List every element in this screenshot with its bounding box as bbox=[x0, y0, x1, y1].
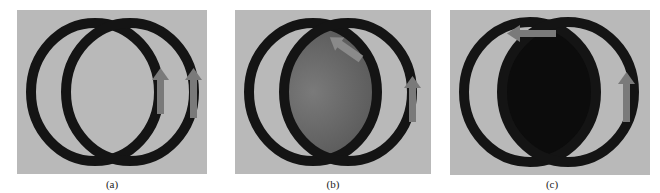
overlapping-rings-diagram-c bbox=[450, 10, 650, 175]
caption-c: (c) bbox=[532, 178, 572, 190]
panel-a bbox=[17, 10, 207, 174]
caption-b: (b) bbox=[313, 178, 353, 190]
caption-a: (a) bbox=[92, 178, 132, 190]
overlapping-rings-diagram-b bbox=[235, 10, 431, 174]
panel-b bbox=[235, 10, 431, 174]
panel-c bbox=[450, 10, 650, 175]
overlapping-rings-diagram-a bbox=[17, 10, 207, 174]
